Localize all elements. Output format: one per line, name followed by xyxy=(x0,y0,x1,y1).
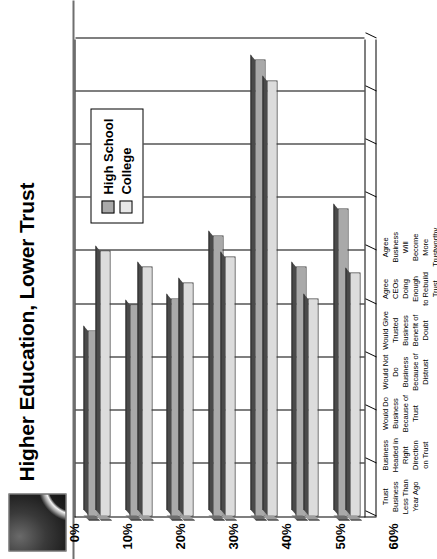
axis-tick xyxy=(365,191,376,197)
axis-tick xyxy=(365,297,376,303)
slide-canvas: Higher Education, Lower Trust 0%10%20%30… xyxy=(0,0,437,559)
bar-top-face xyxy=(137,261,142,515)
legend-item[interactable]: High School xyxy=(100,118,115,213)
bar-group xyxy=(295,39,318,516)
legend-item[interactable]: College xyxy=(118,118,133,213)
bar-top-face xyxy=(83,325,88,515)
category-label-line: Doing Enough xyxy=(400,268,420,310)
bar-top-face xyxy=(208,230,213,515)
bar-college xyxy=(224,256,235,516)
axis-tick xyxy=(365,138,376,144)
category-label-line: Agree xyxy=(380,226,390,268)
chart-legend: High SchoolCollege xyxy=(90,108,143,223)
category-label-line: Business xyxy=(400,309,410,351)
bar-college xyxy=(99,250,110,516)
category-label-line: Trustworthy xyxy=(430,226,437,268)
gridline xyxy=(75,37,364,38)
bar-top-face xyxy=(220,251,225,515)
y-axis-tick-label: 10% xyxy=(120,523,135,549)
bar-face xyxy=(350,273,359,515)
y-axis-tick-labels: 0%10%20%30%40%50%60%70%80%90% xyxy=(74,519,365,559)
bar-college xyxy=(266,81,277,517)
bar-college xyxy=(349,272,360,516)
y-axis-tick-label: 40% xyxy=(279,523,294,549)
y-axis-tick-label: 0% xyxy=(67,523,82,542)
category-label-line: Trusted xyxy=(390,309,400,351)
bar-top-face xyxy=(250,54,255,515)
axis-tick xyxy=(365,457,376,463)
category-label-line: Would Not Do xyxy=(380,351,400,393)
x-axis-category-label: Agree CEOsDoing Enoughto RebuildTrust xyxy=(380,268,437,310)
bar-top-face xyxy=(291,261,296,515)
x-axis-category-label: Would Not DoBusinessBecause ofDistrust xyxy=(380,351,430,393)
category-label-line: Agree CEOs xyxy=(380,268,400,310)
category-label-line: Less Than xyxy=(400,475,410,517)
bar-group xyxy=(254,39,277,516)
bar-chart: 0%10%20%30%40%50%60%70%80%90% Trust Busi… xyxy=(74,0,437,559)
legend-swatch xyxy=(119,200,132,213)
axis-tick xyxy=(365,350,376,356)
y-axis-tick-label: 30% xyxy=(226,523,241,549)
axis-tick xyxy=(365,32,376,38)
category-label-line: on Trust xyxy=(420,434,430,476)
category-label-line: Would Give xyxy=(380,309,390,351)
slide-header: Higher Education, Lower Trust xyxy=(0,0,74,559)
axis-tick xyxy=(365,85,376,91)
bar-college xyxy=(141,266,152,516)
x-axis-category-label: Would DoBusinessBecause ofTrust xyxy=(380,392,420,434)
bar-top-face xyxy=(178,277,183,515)
page-title: Higher Education, Lower Trust xyxy=(14,182,38,481)
bar-college xyxy=(182,282,193,516)
bar-top-face xyxy=(125,299,130,515)
bar-face xyxy=(183,283,192,515)
category-label-line: Benefit of Doubt xyxy=(410,309,430,351)
legend-label: College xyxy=(118,147,133,194)
category-label-line: Because of xyxy=(410,351,420,393)
bar-group xyxy=(170,39,193,516)
y-axis-tick-label: 60% xyxy=(385,523,400,549)
bar-face xyxy=(225,257,234,515)
axis-floor xyxy=(365,39,376,517)
category-label-line: Right Direction xyxy=(400,434,420,476)
category-label-line: Trust xyxy=(410,392,420,434)
category-label-line: Would Do xyxy=(380,392,390,434)
axis-tick xyxy=(365,403,376,409)
crescent-moon-image xyxy=(8,493,66,551)
category-label-line: Trust xyxy=(430,268,437,310)
legend-label: High School xyxy=(100,118,115,194)
bar-group xyxy=(212,39,235,516)
bar-top-face xyxy=(95,245,100,515)
category-label-line: Headed in xyxy=(390,434,400,476)
category-label-line: Distrust xyxy=(420,351,430,393)
bar-top-face xyxy=(262,76,267,515)
bar-face xyxy=(100,251,109,515)
x-axis-category-label: Trust BusinessLess ThanYear Ago xyxy=(380,475,420,517)
x-axis-category-labels: Trust BusinessLess ThanYear AgoBusinessH… xyxy=(380,39,437,517)
y-axis-tick-label: 50% xyxy=(332,523,347,549)
category-label-line: Business Will xyxy=(390,226,410,268)
bar-face xyxy=(142,267,151,515)
legend-swatch xyxy=(101,200,114,213)
axis-baseline xyxy=(375,39,376,516)
category-label-line: Because of xyxy=(400,392,410,434)
axis-tick xyxy=(365,244,376,250)
x-axis-category-label: BusinessHeaded inRight Directionon Trust xyxy=(380,434,430,476)
bar-college xyxy=(307,298,318,516)
x-axis-category-label: AgreeBusiness WillBecome MoreTrustworthy xyxy=(380,226,437,268)
category-label-line: Business xyxy=(390,392,400,434)
bar-top-face xyxy=(166,293,171,515)
bar-face xyxy=(308,299,317,515)
category-label-line: Year Ago xyxy=(410,475,420,517)
category-label-line: to Rebuild xyxy=(420,268,430,310)
axis-tick xyxy=(365,510,376,516)
bar-group xyxy=(337,39,360,516)
category-label-line: Business xyxy=(380,434,390,476)
x-axis-category-label: Would GiveTrustedBusinessBenefit of Doub… xyxy=(380,309,430,351)
y-axis-tick-label: 20% xyxy=(173,523,188,549)
category-label-line: Trust Business xyxy=(380,475,400,517)
bar-top-face xyxy=(345,267,350,515)
category-label-line: Business xyxy=(400,351,410,393)
bar-face xyxy=(267,82,276,516)
category-label-line: Become More xyxy=(410,226,430,268)
bar-top-face xyxy=(333,203,338,515)
